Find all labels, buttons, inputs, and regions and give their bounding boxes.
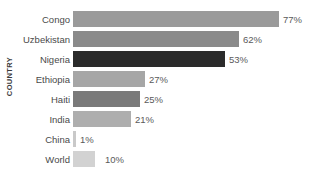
bar-chart: COUNTRY Congo77%Uzbekistan62%Nigeria53%E… [0,0,314,175]
bar [73,131,76,147]
bar [73,91,140,107]
bar-row: World10% [0,149,314,169]
bar-value-label: 27% [149,69,168,89]
bar-value-label: 10% [105,149,124,169]
bar-value-label: 21% [135,109,154,129]
plot-area: Congo77%Uzbekistan62%Nigeria53%Ethiopia2… [0,0,314,175]
category-label: India [0,109,70,129]
category-label: World [0,149,70,169]
bar-row: Uzbekistan62% [0,29,314,49]
bar [73,31,239,47]
bar-row: Ethiopia27% [0,69,314,89]
bar-row: India21% [0,109,314,129]
bar-row: Congo77% [0,9,314,29]
bar [73,51,225,67]
bar-value-label: 77% [283,9,302,29]
bar [73,111,131,127]
bar-row: Nigeria53% [0,49,314,69]
bar-value-label: 25% [144,89,163,109]
bar-value-label: 62% [243,29,262,49]
category-label: Ethiopia [0,69,70,89]
bar [73,11,279,27]
category-label: Congo [0,9,70,29]
bar-row: Haiti25% [0,89,314,109]
category-label: Haiti [0,89,70,109]
category-label: Uzbekistan [0,29,70,49]
bar-value-label: 53% [229,49,248,69]
category-label: China [0,129,70,149]
bar-value-label: 1% [80,129,94,149]
bar-row: China1% [0,129,314,149]
category-label: Nigeria [0,49,70,69]
bar [73,71,145,87]
bar [73,151,95,167]
